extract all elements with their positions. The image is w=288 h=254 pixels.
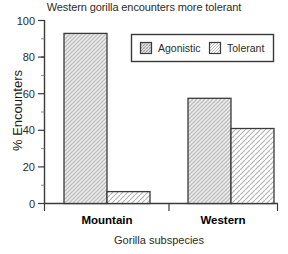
legend: Agonistic Tolerant <box>132 35 274 62</box>
y-tick-label-80: 80 <box>23 51 35 63</box>
bar-mountain-agonistic <box>64 33 107 203</box>
x-category-label-western: Western <box>200 214 245 226</box>
y-tick-label-40: 40 <box>23 124 35 136</box>
y-tick-label-20: 20 <box>23 161 35 173</box>
bar-western-agonistic <box>188 98 231 203</box>
y-tick-label-60: 60 <box>23 88 35 100</box>
bar-western-tolerant <box>231 129 274 204</box>
y-tick-label-100: 100 <box>17 15 35 27</box>
x-category-label-mountain: Mountain <box>81 214 132 226</box>
legend-swatch-agonistic <box>141 43 152 54</box>
bar-chart: Western gorilla encounters more tolerant… <box>0 0 288 254</box>
bar-mountain-tolerant <box>107 192 150 204</box>
plot-area: 100 80 60 40 20 0 Mountain Western Agoni… <box>0 0 288 254</box>
y-tick-label-0: 0 <box>29 198 35 210</box>
legend-swatch-tolerant <box>210 43 221 54</box>
legend-label-agonistic: Agonistic <box>158 42 201 54</box>
y-axis-ticks <box>38 21 45 204</box>
legend-label-tolerant: Tolerant <box>227 42 264 54</box>
